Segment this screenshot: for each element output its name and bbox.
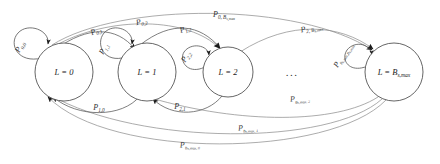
node-label-L0: L = 0 xyxy=(54,67,75,77)
edge-label-1-2: P1,2 xyxy=(177,22,192,36)
node-state-L2[interactable]: L = 2 xyxy=(203,47,253,97)
node-state-LBmax[interactable]: L = Bs,max xyxy=(365,43,423,101)
edge-label-2-1: P2,1 xyxy=(173,102,186,112)
node-state-L1[interactable]: L = 1 xyxy=(118,43,176,101)
edge-label-0-Bmax-group: P0, Bs,max xyxy=(212,10,235,22)
edge-label-2-1-group: P2,1 xyxy=(173,102,186,112)
edge-label-1-0-group: P1,0 xyxy=(92,103,105,113)
node-state-L0[interactable]: L = 0 xyxy=(35,43,93,101)
edge-label-Bmax-0-group: PBs,max, 0 xyxy=(179,139,200,152)
edge-2-to-1 xyxy=(153,96,222,112)
state-transition-diagram: L = 0 L = 1 L = 2 L = Bs,max ... P0,0 P xyxy=(0,0,440,164)
edge-label-Bmax-0: PBs,max, 0 xyxy=(179,139,200,152)
edge-Bmax-to-1 xyxy=(50,95,382,134)
edge-label-Bmax-2: PBs,max, 2 xyxy=(289,93,311,106)
node-label-L1: L = 1 xyxy=(137,67,157,77)
node-label-L2: L = 2 xyxy=(218,67,239,77)
edge-Bmax-to-0 xyxy=(48,97,386,144)
ellipsis: ... xyxy=(286,66,299,78)
diagram-canvas: L = 0 L = 1 L = 2 L = Bs,max ... P0,0 P xyxy=(0,0,440,164)
edge-label-Bmax-2-group: PBs,max, 2 xyxy=(289,93,311,106)
edge-0-to-2 xyxy=(53,24,219,48)
edge-label-1-2-group: P1,2 xyxy=(177,22,192,36)
edge-label-0-Bmax: P0, Bs,max xyxy=(212,10,235,22)
edge-label-1-0: P1,0 xyxy=(92,103,105,113)
